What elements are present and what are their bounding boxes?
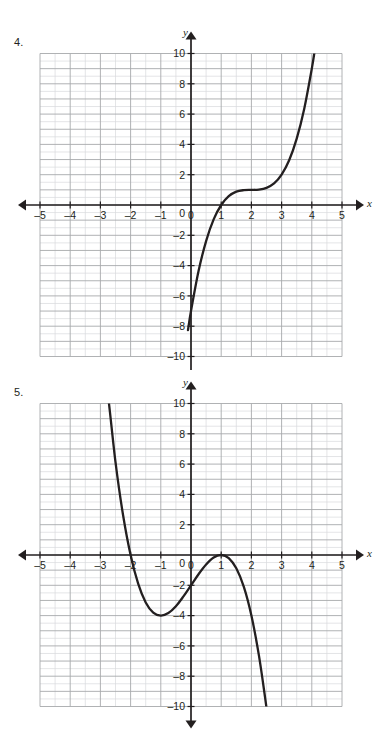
x-tick-label: –3	[95, 209, 107, 221]
x-tick-label: –1	[155, 209, 167, 221]
graph-svg-problem-4: –5–4–3–2–1012345–10–8–6–4–20246810	[0, 22, 383, 370]
y-tick-label: 6	[179, 108, 185, 120]
graph-svg-problem-5: –5–4–3–2–1012345–10–8–6–4–20246810	[0, 372, 383, 731]
x-tick-label: 4	[309, 559, 315, 571]
y-tick-label: –2	[173, 229, 185, 241]
y-tick-label: 0	[179, 557, 185, 569]
y-axis-label-problem-4: y	[183, 26, 188, 38]
y-tick-label: 10	[173, 397, 185, 409]
x-tick-label: –4	[64, 559, 76, 571]
x-tick-label: 3	[279, 559, 285, 571]
x-tick-label: –5	[34, 559, 46, 571]
x-axis-arrow-right	[356, 550, 364, 561]
y-tick-label: 4	[179, 488, 185, 500]
x-axis-label-problem-4: x	[367, 197, 372, 209]
x-tick-label: –3	[95, 559, 107, 571]
y-tick-label: 2	[179, 169, 185, 181]
x-tick-label: 5	[339, 559, 345, 571]
x-tick-label: 1	[218, 559, 224, 571]
x-tick-label: –5	[34, 209, 46, 221]
y-axis-arrow-down	[186, 721, 197, 729]
y-axis-label-problem-5: y	[183, 376, 188, 388]
x-axis-label-problem-5: x	[367, 547, 372, 559]
x-tick-label: 1	[218, 209, 224, 221]
y-tick-label: 10	[173, 47, 185, 59]
y-tick-label: –8	[173, 320, 185, 332]
y-tick-label: 0	[179, 207, 185, 219]
y-tick-label: –4	[173, 259, 185, 271]
x-tick-label: 4	[309, 209, 315, 221]
y-tick-label: 8	[179, 78, 185, 90]
x-tick-label: 5	[339, 209, 345, 221]
x-tick-label: 2	[248, 209, 254, 221]
x-axis-arrow-right	[356, 200, 364, 211]
y-tick-label: 2	[179, 519, 185, 531]
x-tick-label: 3	[279, 209, 285, 221]
x-tick-label: –2	[125, 209, 137, 221]
y-tick-label: –6	[173, 290, 185, 302]
x-tick-label: 2	[248, 559, 254, 571]
x-tick-label: 0	[188, 559, 194, 571]
x-axis-arrow-left	[18, 550, 26, 561]
x-tick-label: –1	[155, 559, 167, 571]
y-tick-label: 4	[179, 138, 185, 150]
x-tick-label: –4	[64, 209, 76, 221]
y-tick-label: –8	[173, 670, 185, 682]
y-tick-label: –10	[167, 700, 185, 712]
y-tick-label: –4	[173, 609, 185, 621]
y-tick-label: 6	[179, 458, 185, 470]
y-tick-label: 8	[179, 428, 185, 440]
y-tick-label: –6	[173, 640, 185, 652]
y-tick-label: –10	[167, 350, 185, 362]
x-tick-label: 0	[188, 209, 194, 221]
coordinate-grid-problem-4: –5–4–3–2–1012345–10–8–6–4–20246810	[0, 22, 383, 370]
coordinate-grid-problem-5: –5–4–3–2–1012345–10–8–6–4–20246810	[0, 372, 383, 731]
x-axis-arrow-left	[18, 200, 26, 211]
y-tick-label: –2	[173, 579, 185, 591]
